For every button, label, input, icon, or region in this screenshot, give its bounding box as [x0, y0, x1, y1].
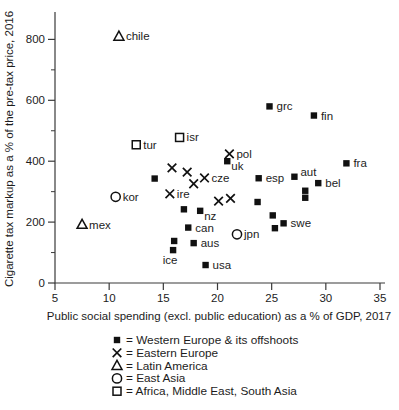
- point-label: ire: [177, 188, 190, 200]
- legend-marker-triangle-open: [112, 360, 122, 369]
- point-chile: [114, 31, 124, 40]
- point-aus: [190, 240, 196, 246]
- point-grc: [266, 103, 272, 109]
- x-tick-label: 35: [374, 292, 387, 304]
- point-label: grc: [277, 100, 293, 112]
- point-label: isr: [187, 131, 199, 143]
- point-pol: [225, 150, 234, 159]
- x-tick-label: 5: [52, 292, 58, 304]
- legend-label: = Africa, Middle East, South Asia: [126, 384, 297, 398]
- point-label: aut: [300, 166, 317, 178]
- point-label: can: [195, 222, 214, 234]
- point-esp: [255, 175, 261, 181]
- legend-marker-circle-open: [112, 374, 121, 383]
- point-unlabeled: [226, 194, 235, 203]
- point-mex: [77, 219, 87, 228]
- point-label: pol: [236, 148, 251, 160]
- point-label: uk: [231, 160, 243, 172]
- point-label: usa: [213, 259, 232, 271]
- point-usa: [202, 262, 208, 268]
- point-label: cze: [212, 172, 230, 184]
- point-label: fra: [353, 157, 367, 169]
- point-fra: [343, 160, 349, 166]
- axis-lines: [55, 12, 385, 283]
- point-tur: [132, 141, 140, 149]
- legend-marker-square-open: [113, 387, 121, 395]
- point-jpn: [232, 230, 241, 239]
- y-axis-title: Cigarette tax markup as a % of the pre-t…: [3, 11, 15, 287]
- chart-page: 02004006008005101520253035 Cigarette tax…: [0, 0, 399, 410]
- point-label: aus: [201, 237, 220, 249]
- point-label: bel: [325, 177, 340, 189]
- data-points: grcfinfraukespautbelswenzcanausiceusapol…: [77, 30, 367, 271]
- point-bel: [315, 180, 321, 186]
- x-tick-label: 10: [103, 292, 116, 304]
- point-label: jpn: [243, 228, 259, 240]
- point-unlabeled: [168, 164, 177, 173]
- point-unlabeled: [302, 195, 308, 201]
- point-swe: [280, 220, 286, 226]
- point-unlabeled: [302, 188, 308, 194]
- point-unlabeled: [151, 175, 157, 181]
- point-ire: [166, 189, 175, 198]
- point-label: kor: [123, 191, 139, 203]
- axes: [55, 12, 385, 283]
- point-label: swe: [291, 217, 311, 229]
- x-tick-label: 15: [157, 292, 170, 304]
- point-label: ice: [163, 254, 178, 266]
- point-can: [185, 224, 191, 230]
- x-tick-label: 20: [211, 292, 224, 304]
- point-isr: [176, 133, 184, 141]
- scatter-plot: 02004006008005101520253035 Cigarette tax…: [0, 0, 399, 410]
- point-label: mex: [89, 219, 111, 231]
- legend-marker-square-filled: [114, 337, 120, 343]
- point-label: chile: [126, 30, 150, 42]
- legend-marker-x-cross: [113, 349, 122, 358]
- point-label: esp: [266, 172, 285, 184]
- point-aut: [291, 174, 297, 180]
- legend: = Western Europe & its offshoots= Easter…: [112, 333, 298, 398]
- point-unlabeled: [183, 168, 192, 177]
- y-tick-label: 0: [39, 277, 45, 289]
- point-nz: [197, 208, 203, 214]
- point-unlabeled: [214, 197, 223, 206]
- point-unlabeled: [254, 199, 260, 205]
- point-label: fin: [321, 110, 333, 122]
- x-axis-title: Public social spending (excl. public edu…: [47, 310, 391, 322]
- point-uk: [224, 158, 230, 164]
- y-tick-label: 600: [26, 94, 45, 106]
- point-fin: [311, 112, 317, 118]
- point-unlabeled: [272, 225, 278, 231]
- point-label: nz: [204, 210, 216, 222]
- point-unlabeled: [181, 206, 187, 212]
- y-tick-label: 800: [26, 33, 45, 45]
- y-tick-label: 200: [26, 216, 45, 228]
- point-unlabeled: [171, 238, 177, 244]
- point-unlabeled: [189, 179, 198, 188]
- point-ice: [170, 247, 176, 253]
- x-tick-label: 30: [319, 292, 332, 304]
- point-unlabeled: [270, 212, 276, 218]
- point-kor: [111, 192, 120, 201]
- point-cze: [200, 174, 209, 183]
- y-tick-label: 400: [26, 155, 45, 167]
- point-label: tur: [143, 139, 157, 151]
- x-tick-label: 25: [265, 292, 278, 304]
